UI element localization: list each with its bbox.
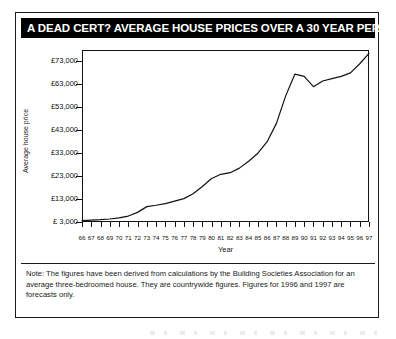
note-divider [21,263,375,264]
x-axis-tick-mark [258,222,259,227]
x-axis-tick-mark [138,222,139,227]
x-axis-tick-labels: 6667686970717273747576777879808182838485… [82,233,369,245]
y-axis-tick-label: £73,000 [18,57,78,65]
x-axis-tick-mark [332,222,333,227]
x-axis-tick-mark [360,222,361,227]
scan-artifact [150,331,386,335]
x-axis-tick-mark [110,222,111,227]
y-axis-tick-label: £13,000 [18,195,78,203]
y-axis-tick-label: £23,000 [18,172,78,180]
chart-title-bar: A DEAD CERT? AVERAGE HOUSE PRICES OVER A… [21,18,375,38]
x-axis-tick-mark [323,222,324,227]
x-axis-tick-mark [230,222,231,227]
y-axis-title: Average house price [20,0,32,91]
x-axis-tick-mark [165,222,166,227]
x-axis-tick-mark [350,222,351,227]
y-axis-tick-label: £ 3,000 [18,218,78,226]
y-axis-tick-label: £53,000 [18,103,78,111]
x-axis-tick-mark [304,222,305,227]
x-axis-tick-mark [267,222,268,227]
x-axis-tick-mark [101,222,102,227]
screenshot-root: A DEAD CERT? AVERAGE HOUSE PRICES OVER A… [0,0,396,339]
x-axis-tick-mark [128,222,129,227]
x-axis-tick-mark [369,222,370,227]
figure-container: A DEAD CERT? AVERAGE HOUSE PRICES OVER A… [15,12,379,318]
x-axis-tick-mark [91,222,92,227]
y-axis-tick-label: £33,000 [18,149,78,157]
x-axis-tick-mark [82,222,83,227]
chart-note: Note: The figures have been derived from… [26,269,370,301]
x-axis-tick-mark [221,222,222,227]
price-line-chart [82,50,369,222]
x-axis-tick-mark [184,222,185,227]
x-axis-tick-mark [202,222,203,227]
x-axis-title: Year [82,245,369,254]
x-axis-tick-mark [249,222,250,227]
x-axis-tick-mark [212,222,213,227]
x-axis-tick-mark [276,222,277,227]
x-axis-tick-mark [147,222,148,227]
x-axis-tick-mark [295,222,296,227]
x-axis-tick-mark [313,222,314,227]
x-axis-tick-mark [341,222,342,227]
series-line-average-house-price [82,53,369,220]
x-axis-tick-mark [156,222,157,227]
x-axis-tick-mark [286,222,287,227]
chart-title: A DEAD CERT? AVERAGE HOUSE PRICES OVER A… [27,22,396,34]
x-axis-tick-label: 97 [362,233,376,242]
y-axis-tick-label: £43,000 [18,126,78,134]
x-axis-tick-mark [119,222,120,227]
y-axis-tick-label: £63,000 [18,80,78,88]
chart-plot-region: Average house price £ 3,000£13,000£23,00… [21,41,375,259]
x-axis-tick-mark [239,222,240,227]
x-axis-tick-mark [193,222,194,227]
x-axis-tick-mark [175,222,176,227]
